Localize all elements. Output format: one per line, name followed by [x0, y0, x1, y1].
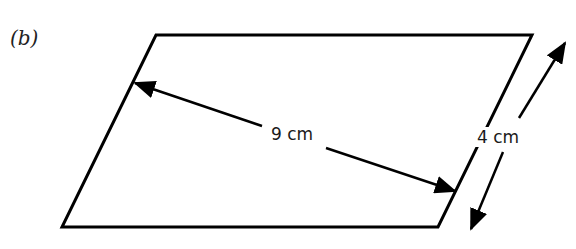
diagram-canvas: (b) 9 cm 4 cm: [0, 0, 576, 249]
nine-cm-label: 9 cm: [268, 124, 316, 144]
four-cm-label: 4 cm: [474, 127, 522, 147]
